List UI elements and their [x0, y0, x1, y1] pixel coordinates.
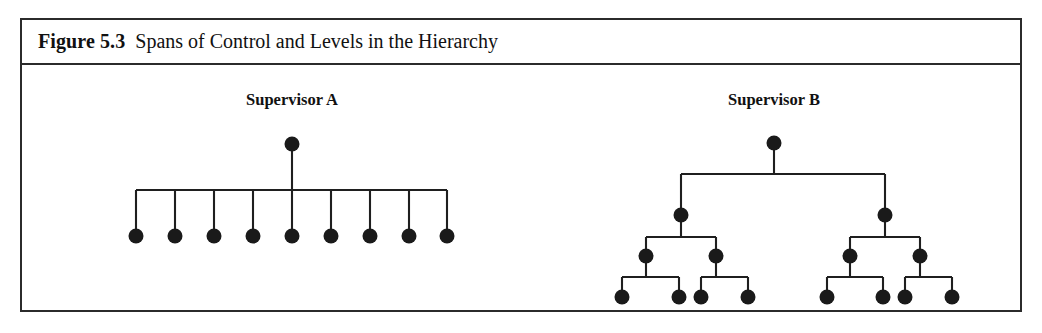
figure-caption-bar: Figure 5.3 Spans of Control and Levels i…: [22, 20, 1020, 65]
subordinate-node-9: [440, 229, 455, 244]
figure-canvas: Supervisor A Supervisor B: [22, 65, 1020, 310]
level-3-node-3: [843, 249, 858, 264]
level-4-node-2: [672, 290, 687, 305]
subordinate-node-2: [168, 229, 183, 244]
diagram-supervisor-a: Supervisor A: [129, 90, 455, 244]
level-4-node-3: [694, 290, 709, 305]
supervisor-a-heading: Supervisor A: [246, 90, 338, 109]
level-4-node-5: [820, 290, 835, 305]
level-4-node-7: [898, 290, 913, 305]
subordinate-node-8: [402, 229, 417, 244]
supervisor-b-heading: Supervisor B: [728, 90, 820, 109]
figure-box: Figure 5.3 Spans of Control and Levels i…: [20, 18, 1022, 312]
diagram-supervisor-b: Supervisor B: [615, 90, 960, 305]
figure-number-label: Figure 5.3: [38, 30, 125, 53]
figure-title: Spans of Control and Levels in the Hiera…: [135, 30, 498, 53]
subordinate-node-5: [285, 229, 300, 244]
supervisor-node: [767, 136, 782, 151]
level-3-node-2: [709, 249, 724, 264]
level-2-node-1: [674, 208, 689, 223]
level-4-node-1: [615, 290, 630, 305]
level-4-node-6: [876, 290, 891, 305]
level-4-node-4: [741, 290, 756, 305]
subordinate-node-4: [246, 229, 261, 244]
level-3-node-4: [913, 249, 928, 264]
subordinate-node-7: [363, 229, 378, 244]
level-4-node-8: [945, 290, 960, 305]
level-3-node-1: [639, 249, 654, 264]
level-2-node-2: [878, 208, 893, 223]
subordinate-node-1: [129, 229, 144, 244]
subordinate-node-3: [207, 229, 222, 244]
subordinate-node-6: [324, 229, 339, 244]
supervisor-node: [285, 137, 300, 152]
hierarchy-diagram: Supervisor A Supervisor B: [22, 65, 1020, 310]
